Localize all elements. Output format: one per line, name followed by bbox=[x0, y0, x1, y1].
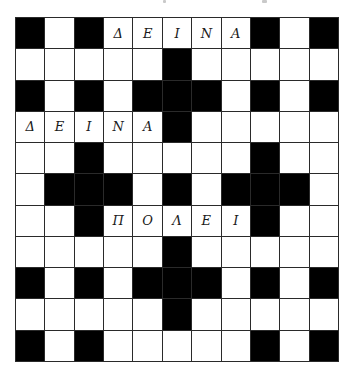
empty-letter-cell[interactable] bbox=[222, 268, 250, 298]
empty-letter-cell[interactable] bbox=[104, 299, 132, 329]
empty-letter-cell[interactable] bbox=[192, 174, 220, 204]
empty-letter-cell[interactable] bbox=[133, 299, 161, 329]
empty-letter-cell[interactable] bbox=[280, 268, 308, 298]
empty-letter-cell[interactable] bbox=[310, 174, 338, 204]
black-block-cell bbox=[16, 268, 44, 298]
empty-letter-cell[interactable] bbox=[45, 81, 73, 111]
black-block-cell bbox=[192, 268, 220, 298]
empty-letter-cell[interactable] bbox=[45, 268, 73, 298]
filled-letter-cell[interactable]: Δ bbox=[104, 18, 132, 48]
empty-letter-cell[interactable] bbox=[133, 49, 161, 79]
filled-letter-cell[interactable]: Α bbox=[133, 112, 161, 142]
empty-letter-cell[interactable] bbox=[163, 143, 191, 173]
empty-letter-cell[interactable] bbox=[251, 112, 279, 142]
empty-letter-cell[interactable] bbox=[310, 237, 338, 267]
empty-letter-cell[interactable] bbox=[75, 237, 103, 267]
empty-letter-cell[interactable] bbox=[163, 331, 191, 361]
empty-letter-cell[interactable] bbox=[310, 112, 338, 142]
empty-letter-cell[interactable] bbox=[45, 143, 73, 173]
empty-letter-cell[interactable] bbox=[104, 268, 132, 298]
empty-letter-cell[interactable] bbox=[251, 299, 279, 329]
empty-letter-cell[interactable] bbox=[45, 49, 73, 79]
empty-letter-cell[interactable] bbox=[16, 237, 44, 267]
empty-letter-cell[interactable] bbox=[310, 206, 338, 236]
black-block-cell bbox=[75, 81, 103, 111]
filled-letter-cell[interactable]: Ν bbox=[104, 112, 132, 142]
empty-letter-cell[interactable] bbox=[104, 81, 132, 111]
empty-letter-cell[interactable] bbox=[75, 299, 103, 329]
empty-letter-cell[interactable] bbox=[280, 237, 308, 267]
filled-letter-cell[interactable]: Ε bbox=[192, 206, 220, 236]
filled-letter-cell[interactable]: Λ bbox=[163, 206, 191, 236]
empty-letter-cell[interactable] bbox=[133, 237, 161, 267]
filled-letter-cell[interactable]: Ε bbox=[45, 112, 73, 142]
black-block-cell bbox=[310, 18, 338, 48]
empty-letter-cell[interactable] bbox=[104, 143, 132, 173]
filled-letter-cell[interactable]: Ι bbox=[222, 206, 250, 236]
empty-letter-cell[interactable] bbox=[222, 331, 250, 361]
empty-letter-cell[interactable] bbox=[192, 299, 220, 329]
empty-letter-cell[interactable] bbox=[222, 81, 250, 111]
black-block-cell bbox=[192, 81, 220, 111]
empty-letter-cell[interactable] bbox=[310, 49, 338, 79]
empty-letter-cell[interactable] bbox=[104, 331, 132, 361]
empty-letter-cell[interactable] bbox=[280, 143, 308, 173]
empty-letter-cell[interactable] bbox=[280, 49, 308, 79]
empty-letter-cell[interactable] bbox=[222, 299, 250, 329]
empty-letter-cell[interactable] bbox=[280, 81, 308, 111]
empty-letter-cell[interactable] bbox=[16, 206, 44, 236]
filled-letter-cell[interactable]: Δ bbox=[16, 112, 44, 142]
filled-letter-cell[interactable]: Ι bbox=[163, 18, 191, 48]
black-block-cell bbox=[16, 81, 44, 111]
empty-letter-cell[interactable] bbox=[192, 112, 220, 142]
empty-letter-cell[interactable] bbox=[192, 237, 220, 267]
empty-letter-cell[interactable] bbox=[192, 49, 220, 79]
black-block-cell bbox=[104, 174, 132, 204]
text-fragment bbox=[163, 0, 166, 3]
empty-letter-cell[interactable] bbox=[133, 143, 161, 173]
empty-letter-cell[interactable] bbox=[222, 112, 250, 142]
empty-letter-cell[interactable] bbox=[280, 112, 308, 142]
empty-letter-cell[interactable] bbox=[16, 49, 44, 79]
black-block-cell bbox=[163, 299, 191, 329]
filled-letter-cell[interactable]: Ε bbox=[133, 18, 161, 48]
filled-letter-cell[interactable]: Π bbox=[104, 206, 132, 236]
filled-letter-cell[interactable]: Ν bbox=[192, 18, 220, 48]
empty-letter-cell[interactable] bbox=[45, 331, 73, 361]
empty-letter-cell[interactable] bbox=[192, 143, 220, 173]
filled-letter-cell[interactable]: Ι bbox=[75, 112, 103, 142]
filled-letter-cell[interactable]: Ο bbox=[133, 206, 161, 236]
empty-letter-cell[interactable] bbox=[16, 174, 44, 204]
empty-letter-cell[interactable] bbox=[133, 331, 161, 361]
black-block-cell bbox=[163, 268, 191, 298]
black-block-cell bbox=[251, 174, 279, 204]
empty-letter-cell[interactable] bbox=[310, 143, 338, 173]
black-block-cell bbox=[310, 81, 338, 111]
black-block-cell bbox=[75, 143, 103, 173]
empty-letter-cell[interactable] bbox=[192, 331, 220, 361]
empty-letter-cell[interactable] bbox=[45, 206, 73, 236]
black-block-cell bbox=[133, 268, 161, 298]
empty-letter-cell[interactable] bbox=[45, 299, 73, 329]
empty-letter-cell[interactable] bbox=[310, 299, 338, 329]
empty-letter-cell[interactable] bbox=[280, 206, 308, 236]
empty-letter-cell[interactable] bbox=[251, 49, 279, 79]
empty-letter-cell[interactable] bbox=[16, 143, 44, 173]
empty-letter-cell[interactable] bbox=[75, 49, 103, 79]
empty-letter-cell[interactable] bbox=[280, 331, 308, 361]
empty-letter-cell[interactable] bbox=[133, 174, 161, 204]
text-fragment bbox=[262, 0, 267, 3]
empty-letter-cell[interactable] bbox=[222, 237, 250, 267]
empty-letter-cell[interactable] bbox=[45, 237, 73, 267]
empty-letter-cell[interactable] bbox=[16, 299, 44, 329]
empty-letter-cell[interactable] bbox=[104, 49, 132, 79]
black-block-cell bbox=[251, 206, 279, 236]
empty-letter-cell[interactable] bbox=[45, 18, 73, 48]
empty-letter-cell[interactable] bbox=[104, 237, 132, 267]
empty-letter-cell[interactable] bbox=[280, 299, 308, 329]
empty-letter-cell[interactable] bbox=[222, 143, 250, 173]
filled-letter-cell[interactable]: Α bbox=[222, 18, 250, 48]
empty-letter-cell[interactable] bbox=[251, 237, 279, 267]
empty-letter-cell[interactable] bbox=[222, 49, 250, 79]
empty-letter-cell[interactable] bbox=[280, 18, 308, 48]
